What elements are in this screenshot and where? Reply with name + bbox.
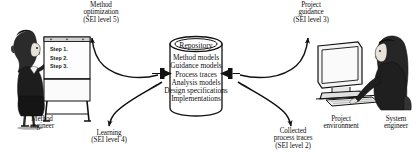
- label-method-optimization: Method optimization (SEI level 5): [62, 2, 140, 24]
- flipchart-step: Step 2.: [50, 54, 90, 63]
- label-collected-process-traces: Collected process traces (SEI level 2): [252, 128, 334, 150]
- label-line: (SEI level 5): [62, 17, 140, 24]
- label-line: engineer: [372, 123, 420, 130]
- repository-item-list: Method models Guidance models Process tr…: [146, 54, 246, 104]
- flipchart-step: Step 3.: [50, 62, 90, 71]
- repository-title: Repository: [170, 41, 222, 50]
- label-line: (SEI level 4): [70, 137, 148, 144]
- repository-item: Implementations: [146, 95, 246, 103]
- flipchart-steps: Step 1. Step 2. Step 3.: [50, 45, 90, 71]
- label-learning: Learning (SEI level 4): [70, 130, 148, 145]
- label-line: environment: [312, 123, 370, 130]
- label-system-engineer: System engineer: [372, 116, 420, 131]
- label-line: engineer: [12, 123, 72, 130]
- label-line: (SEI level 3): [272, 17, 350, 24]
- label-project-guidance: Project guidance (SEI level 3): [272, 2, 350, 24]
- label-line: (SEI level 2): [252, 143, 334, 150]
- label-project-environment: Project environment: [312, 116, 370, 131]
- method-engineering-repository-diagram: Repository Method models Guidance models…: [0, 0, 420, 152]
- arrow-project-guidance: [240, 38, 308, 78]
- flipchart-step: Step 1.: [50, 45, 90, 54]
- desktop-computer: [316, 42, 380, 106]
- label-method-engineer: Method engineer: [12, 116, 72, 131]
